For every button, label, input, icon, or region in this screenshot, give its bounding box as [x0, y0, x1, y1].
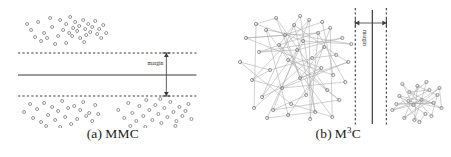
margin-label-text: margin	[148, 60, 164, 66]
data-point	[76, 118, 79, 121]
panel-m3c: margin (b)M3C	[226, 0, 451, 157]
data-point	[37, 21, 40, 24]
graph-edge	[291, 104, 332, 117]
data-point	[26, 23, 29, 26]
graph-edge	[266, 30, 288, 115]
plot-area-mmc: margin	[0, 0, 226, 128]
data-point	[74, 21, 77, 24]
boundary-lines-group	[355, 8, 386, 126]
data-point	[71, 35, 74, 38]
graph-edge	[279, 45, 332, 117]
graph-nodes-group	[238, 14, 443, 123]
boundary-lines-group	[18, 53, 196, 96]
margin-arrowhead-top	[164, 53, 169, 57]
data-point	[145, 99, 148, 102]
graph-node	[402, 116, 405, 119]
data-point	[85, 34, 88, 37]
graph-edge	[252, 80, 282, 88]
data-point	[84, 28, 87, 31]
data-point	[169, 101, 172, 104]
data-point	[105, 32, 108, 35]
data-point	[57, 35, 60, 38]
graph-edge	[266, 30, 351, 44]
panel-mmc: margin (a)MMC	[0, 0, 226, 157]
data-point	[97, 113, 100, 116]
data-point	[151, 119, 154, 122]
data-point	[85, 115, 88, 118]
data-point	[148, 109, 151, 112]
caption-tail-b: C	[352, 126, 361, 141]
data-point	[51, 26, 54, 29]
margin-label-group: margin	[148, 60, 164, 66]
data-point	[79, 109, 82, 112]
data-point	[82, 101, 85, 104]
margin-arrow-group	[355, 19, 386, 27]
graph-edge	[267, 112, 315, 118]
data-point	[46, 37, 49, 40]
data-point	[43, 102, 46, 105]
data-point	[131, 112, 134, 115]
data-point	[54, 43, 57, 46]
data-point	[184, 110, 187, 113]
data-point	[157, 113, 160, 116]
scatter-points-group	[23, 16, 193, 129]
graph-edge	[300, 62, 348, 78]
margin-arrowhead-left	[355, 21, 359, 26]
data-point	[29, 103, 32, 106]
graph-edge	[439, 88, 441, 108]
data-point	[54, 119, 57, 122]
data-point	[178, 106, 181, 109]
graph-edges-group	[240, 16, 441, 122]
data-point	[65, 23, 68, 26]
data-point	[40, 121, 43, 124]
data-point	[49, 17, 52, 20]
data-point	[64, 116, 67, 119]
margin-arrowhead-bottom	[164, 92, 169, 96]
data-point	[69, 16, 72, 19]
data-point	[123, 117, 126, 120]
data-point	[67, 107, 70, 110]
data-point	[91, 26, 94, 29]
data-point	[61, 100, 64, 103]
graph-edge	[256, 18, 276, 24]
mmc-plot-svg: margin	[0, 0, 226, 128]
data-point	[51, 106, 54, 109]
caption-letter-a: (a)	[87, 126, 103, 141]
caption-text-a: MMC	[105, 126, 139, 141]
data-point	[78, 25, 81, 28]
caption-mmc: (a)MMC	[0, 126, 226, 142]
data-point	[62, 29, 65, 32]
data-point	[94, 20, 97, 23]
data-point	[79, 37, 82, 40]
margin-label-text: margin	[362, 30, 368, 46]
data-point	[88, 112, 91, 115]
data-point	[36, 108, 39, 111]
graph-edge	[417, 86, 437, 95]
m3c-plot-svg: margin	[226, 0, 451, 128]
data-point	[87, 23, 90, 26]
data-point	[138, 105, 141, 108]
graph-node	[319, 66, 322, 69]
graph-edge	[336, 55, 348, 62]
data-point	[160, 122, 163, 125]
data-point	[73, 105, 76, 108]
data-point	[68, 32, 71, 35]
margin-label-group: margin	[362, 30, 368, 46]
caption-text-b: M	[335, 126, 347, 141]
data-point	[76, 30, 79, 33]
data-point	[159, 98, 162, 101]
data-point	[43, 32, 46, 35]
data-point	[83, 41, 86, 44]
caption-m3c: (b)M3C	[226, 126, 451, 142]
data-point	[89, 31, 92, 34]
data-point	[102, 24, 105, 27]
data-point	[47, 114, 50, 117]
plot-area-m3c: margin	[226, 0, 451, 128]
data-point	[30, 29, 33, 32]
data-point	[32, 117, 35, 120]
data-point	[166, 116, 169, 119]
figure-container: margin (a)MMC margin (b)M3C	[0, 0, 451, 157]
data-point	[40, 40, 43, 43]
data-point	[181, 115, 184, 118]
data-point	[187, 103, 190, 106]
